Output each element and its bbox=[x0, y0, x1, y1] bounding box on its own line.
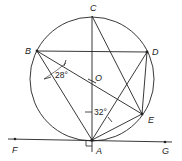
point-F bbox=[14, 138, 17, 141]
segment-DA bbox=[92, 52, 147, 140]
label-D: D bbox=[152, 47, 159, 57]
label-G: G bbox=[162, 146, 169, 156]
tangent-line-FG bbox=[8, 139, 172, 142]
label-F: F bbox=[12, 145, 18, 155]
label-O: O bbox=[95, 73, 102, 83]
geometry-diagram: C B D O E F A G 28° 32° bbox=[0, 0, 182, 161]
arrow-tick-A2 bbox=[108, 117, 112, 122]
label-B: B bbox=[25, 46, 31, 56]
point-D bbox=[146, 51, 149, 54]
segment-BD bbox=[37, 51, 147, 52]
angle-label-32: 32° bbox=[94, 107, 107, 117]
label-A: A bbox=[95, 146, 102, 156]
label-E: E bbox=[148, 115, 155, 125]
angle-label-28: 28° bbox=[55, 70, 68, 80]
point-A bbox=[90, 138, 93, 141]
point-B bbox=[36, 50, 39, 53]
point-G bbox=[164, 141, 167, 144]
label-C: C bbox=[90, 3, 97, 13]
segment-DE bbox=[142, 52, 147, 114]
point-E bbox=[141, 113, 144, 116]
